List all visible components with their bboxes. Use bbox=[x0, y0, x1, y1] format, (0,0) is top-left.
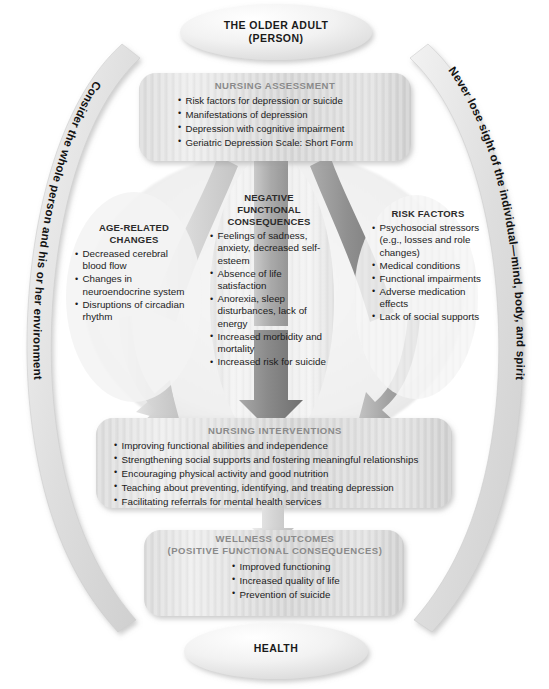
nursing-interventions-content: NURSING INTERVENTIONS Improving function… bbox=[100, 425, 450, 509]
health-label: HEALTH bbox=[216, 642, 336, 655]
list-item: Improving functional abilities and indep… bbox=[114, 439, 450, 452]
wellness-heading-line2: (POSITIVE FUNCTIONAL CONSEQUENCES) bbox=[150, 545, 400, 557]
older-adult-line1: THE OLDER ADULT bbox=[196, 19, 356, 32]
older-adult-line2: (PERSON) bbox=[196, 32, 356, 45]
nfc-heading-line1: NEGATIVE bbox=[210, 192, 328, 204]
list-item: Lack of social supports bbox=[372, 311, 484, 323]
list-item: Encouraging physical activity and good n… bbox=[114, 467, 450, 480]
list-item: Absence of life satisfaction bbox=[210, 268, 328, 293]
nursing-interventions-heading: NURSING INTERVENTIONS bbox=[100, 425, 450, 437]
list-item: Geriatric Depression Scale: Short Form bbox=[178, 136, 400, 149]
wellness-heading-line1: WELLNESS OUTCOMES bbox=[150, 533, 400, 545]
nursing-assessment-list: Risk factors for depression or suicideMa… bbox=[150, 94, 400, 149]
nfc-heading-line3: CONSEQUENCES bbox=[210, 216, 328, 228]
nfc-heading-line2: FUNCTIONAL bbox=[210, 204, 328, 216]
nursing-interventions-list: Improving functional abilities and indep… bbox=[100, 439, 450, 508]
negative-functional-consequences-list: Feelings of sadness, anxiety, decreased … bbox=[210, 230, 328, 368]
list-item: Increased risk for suicide bbox=[210, 356, 328, 368]
list-item: Disruptions of circadian rhythm bbox=[75, 299, 193, 324]
list-item: Strengthening social supports and foster… bbox=[114, 453, 450, 466]
list-item: Improved functioning bbox=[232, 560, 400, 573]
age-related-changes-list: Decreased cerebral blood flowChanges in … bbox=[75, 248, 193, 323]
older-adult-label: THE OLDER ADULT (PERSON) bbox=[196, 19, 356, 45]
list-item: Risk factors for depression or suicide bbox=[178, 94, 400, 107]
list-item: Adverse medication effects bbox=[372, 286, 484, 311]
list-item: Medical conditions bbox=[372, 260, 484, 272]
negative-functional-consequences-content: NEGATIVE FUNCTIONAL CONSEQUENCES Feeling… bbox=[210, 192, 328, 369]
list-item: Facilitating referrals for mental health… bbox=[114, 495, 450, 508]
age-related-heading-line1: AGE-RELATED bbox=[75, 222, 193, 234]
list-item: Functional impairments bbox=[372, 273, 484, 285]
list-item: Increased quality of life bbox=[232, 574, 400, 587]
nursing-assessment-content: NURSING ASSESSMENT Risk factors for depr… bbox=[150, 80, 400, 150]
list-item: Manifestations of depression bbox=[178, 108, 400, 121]
list-item: Depression with cognitive impairment bbox=[178, 122, 400, 135]
list-item: Feelings of sadness, anxiety, decreased … bbox=[210, 230, 328, 267]
nursing-assessment-heading: NURSING ASSESSMENT bbox=[150, 80, 400, 92]
list-item: Changes in neuroendocrine system bbox=[75, 273, 193, 298]
risk-factors-list: Psychosocial stressors (e.g., losses and… bbox=[372, 222, 484, 323]
list-item: Increased morbidity and mortality bbox=[210, 331, 328, 356]
diagram-canvas: Consider the whole person and his or her… bbox=[0, 0, 549, 689]
list-item: Psychosocial stressors (e.g., losses and… bbox=[372, 222, 484, 259]
list-item: Decreased cerebral blood flow bbox=[75, 248, 193, 273]
health-label-text: HEALTH bbox=[216, 642, 336, 655]
risk-factors-heading: RISK FACTORS bbox=[372, 208, 484, 220]
list-item: Prevention of suicide bbox=[232, 588, 400, 601]
list-item: Teaching about preventing, identifying, … bbox=[114, 481, 450, 494]
wellness-outcomes-content: WELLNESS OUTCOMES (POSITIVE FUNCTIONAL C… bbox=[150, 533, 400, 602]
risk-factors-content: RISK FACTORS Psychosocial stressors (e.g… bbox=[372, 208, 484, 324]
list-item: Anorexia, sleep disturbances, lack of en… bbox=[210, 293, 328, 330]
wellness-outcomes-list: Improved functioningIncreased quality of… bbox=[150, 560, 400, 601]
age-related-changes-content: AGE-RELATED CHANGES Decreased cerebral b… bbox=[75, 222, 193, 324]
age-related-heading-line2: CHANGES bbox=[75, 234, 193, 246]
